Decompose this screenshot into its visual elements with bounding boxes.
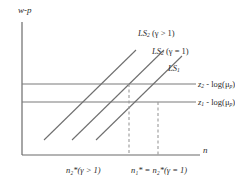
- tick-label-n2-star: n₂*(γ > 1): [66, 166, 101, 175]
- level-label-z1: z1 - log(μp): [198, 98, 235, 108]
- curve-ls2-gamma-eq-1: [72, 50, 164, 140]
- level-label-z2: z2 - log(μp): [198, 80, 235, 90]
- labor-supply-diagram: w-p n LS2 (γ > 1) LS2 (γ = 1) LS1 z2 - l…: [0, 0, 235, 188]
- curve-label-ls1: LS1: [168, 64, 180, 74]
- diagram-canvas: [0, 0, 235, 188]
- tick-label-n1-star: n₁* = n₂*(γ = 1): [131, 166, 187, 175]
- y-axis-label: w-p: [18, 6, 32, 15]
- curve-label-ls2-gamma-eq-1: LS2 (γ = 1): [152, 47, 189, 57]
- curve-ls2-gamma-gt-1: [44, 50, 136, 140]
- curve-label-ls2-gamma-gt-1: LS2 (γ > 1): [138, 29, 175, 39]
- x-axis-label: n: [203, 146, 208, 155]
